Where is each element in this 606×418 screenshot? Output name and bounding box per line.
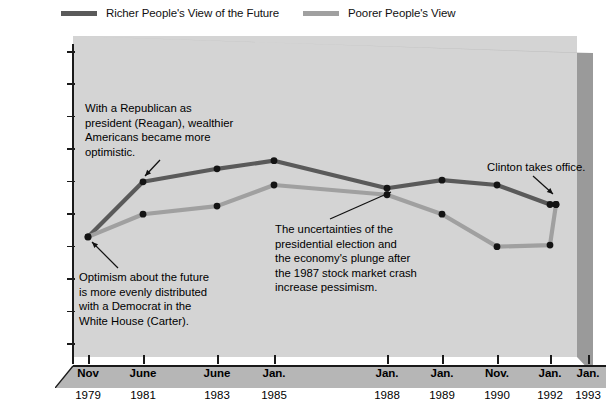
x-axis-month-4: Jan.	[375, 367, 398, 379]
y-axis-line	[72, 44, 74, 364]
x-axis-month-7: Jan.	[538, 367, 561, 379]
x-axis-year-1: 1981	[130, 389, 156, 401]
x-axis-tick-3	[274, 355, 276, 364]
x-axis-month-0: Nov	[77, 367, 99, 379]
legend-label-poorer: Poorer People's View	[348, 7, 455, 19]
x-axis-tick-5	[442, 355, 444, 364]
x-axis-month-1: June	[130, 367, 157, 379]
annotation-clinton: Clinton takes office.	[487, 160, 606, 175]
x-axis-tick-7	[550, 355, 552, 364]
legend-item-poorer: Poorer People's View	[303, 7, 455, 19]
x-axis-year-5: 1989	[429, 389, 455, 401]
y-axis: Best = 1098765432Worst = 1	[0, 0, 73, 418]
chart-legend: Richer People's View of the Future Poore…	[0, 0, 606, 30]
x-axis-month-3: Jan.	[262, 367, 285, 379]
chart-page: Richer People's View of the Future Poore…	[0, 0, 606, 418]
x-axis-month-5: Jan.	[430, 367, 453, 379]
x-axis-year-4: 1988	[374, 389, 400, 401]
x-axis-year-3: 1985	[261, 389, 287, 401]
legend-item-richer: Richer People's View of the Future	[61, 7, 279, 19]
x-axis-tick-4	[387, 355, 389, 364]
x-axis-year-7: 1992	[537, 389, 563, 401]
x-axis-tick-2	[217, 355, 219, 364]
annotation-carter: Optimism about the future is more evenly…	[79, 270, 264, 328]
x-axis-year-2: 1983	[204, 389, 230, 401]
x-axis-year-0: 1979	[75, 389, 101, 401]
legend-label-richer: Richer People's View of the Future	[106, 7, 279, 19]
x-axis-year-6: 1990	[484, 389, 510, 401]
x-axis-month-8: Jan.	[576, 367, 599, 379]
legend-swatch-poorer	[303, 11, 339, 16]
x-axis-tick-1	[143, 355, 145, 364]
x-axis-month-6: Nov.	[485, 367, 509, 379]
annotation-election: The uncertainties of the presidential el…	[275, 222, 465, 295]
x-axis-tick-8	[588, 355, 590, 364]
annotation-reagan: With a Republican as president (Reagan),…	[85, 101, 260, 159]
x-axis-month-2: June	[204, 367, 231, 379]
x-axis-year-8: 1993	[575, 389, 601, 401]
x-axis-tick-6	[497, 355, 499, 364]
x-axis-tick-0	[88, 355, 90, 364]
